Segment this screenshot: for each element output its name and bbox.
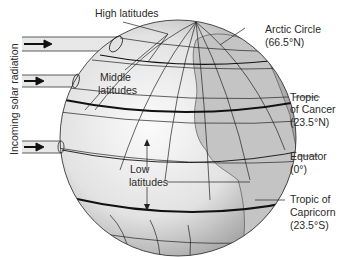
tropic-of-cancer-label: (23.5°N)	[290, 116, 329, 128]
middle-latitudes-label: Middle	[100, 71, 131, 83]
incoming-solar-radiation-label: Incoming solar radiation	[8, 43, 20, 155]
equator-label: Equator	[290, 150, 327, 162]
high-latitudes-label: High latitudes	[95, 7, 159, 19]
tropic-of-cancer-label: of Cancer	[290, 103, 336, 115]
arrow-icon	[24, 40, 52, 151]
middle-latitudes-label: latitudes	[98, 84, 137, 96]
low-latitudes-label: latitudes	[129, 176, 168, 188]
insolation-globe-diagram: Incoming solar radiation High latitudes …	[0, 0, 345, 257]
tropic-of-capricorn-label: Capricorn	[290, 206, 336, 218]
globe	[58, 20, 318, 256]
tropic-of-capricorn-label: Tropic of	[290, 193, 331, 205]
tropic-of-cancer-label: Tropic	[290, 91, 319, 103]
equator-label: (0°)	[290, 163, 307, 175]
arctic-circle-label: Arctic Circle	[265, 23, 321, 35]
tropic-of-capricorn-label: (23.5°S)	[290, 219, 329, 231]
arctic-circle-label: (66.5°N)	[265, 36, 304, 48]
low-latitudes-label: Low	[130, 163, 150, 175]
